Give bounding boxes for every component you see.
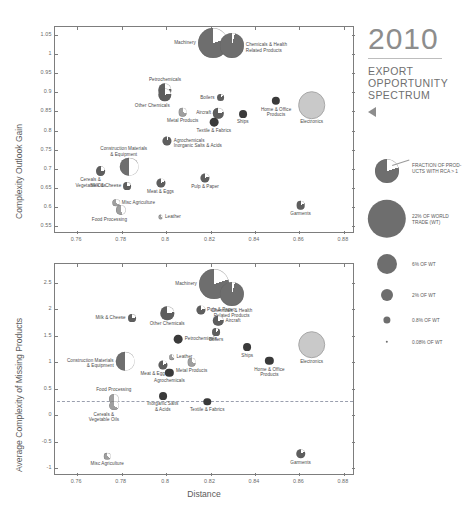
bubble-agrochemicals[interactable] — [165, 368, 173, 376]
axis-tick-label: 0.88 — [337, 478, 348, 484]
y-axis-title-top: Complexity Outlook Gain — [14, 124, 24, 219]
axis-tick-label: 0 — [48, 411, 51, 417]
y-tick — [55, 169, 58, 170]
bubble-other-chemicals[interactable] — [161, 307, 174, 320]
bubble-construction-materials-equipment[interactable] — [116, 352, 135, 371]
legend-size-label-2: 2% OF WT — [412, 293, 436, 299]
bubble-aircraft[interactable] — [213, 315, 223, 325]
bubble-label: Electronics — [300, 119, 323, 124]
bubble-boilers[interactable] — [212, 328, 220, 336]
bubble-label: Chemicals & Health Related Products — [246, 42, 287, 53]
bubble-leather[interactable] — [158, 214, 163, 219]
y-tick — [55, 207, 58, 208]
bubble-label: Home & Office Products — [261, 107, 291, 118]
axis-tick-label: 0.7 — [44, 165, 52, 171]
axis-tick-label: 0.9 — [44, 88, 52, 94]
axis-tick-label: 0.65 — [41, 184, 52, 190]
x-tick — [122, 231, 123, 234]
y-tick — [352, 207, 355, 208]
x-tick — [255, 27, 256, 30]
bubble-construction-materials-equipment[interactable] — [120, 157, 139, 176]
bubble-milk-cheese[interactable] — [123, 182, 131, 190]
bubble-label: Garments — [290, 460, 311, 465]
x-tick — [77, 27, 78, 30]
y-tick — [352, 442, 355, 443]
bubble-electronics[interactable] — [298, 331, 326, 359]
x-tick — [122, 264, 123, 267]
bubble-food-processing[interactable] — [115, 205, 125, 215]
y-tick — [55, 362, 58, 363]
bubble-garments[interactable] — [296, 201, 305, 210]
y-tick — [352, 309, 355, 310]
bubble-pulp-paper[interactable] — [200, 174, 209, 183]
bubble-chemicals-health-related-products[interactable] — [220, 33, 244, 57]
legend-size-circle-2[interactable] — [381, 289, 393, 301]
y-tick — [352, 169, 355, 170]
y-tick — [352, 362, 355, 363]
axis-tick-label: 0.82 — [204, 478, 215, 484]
axis-tick-label: 0.75 — [41, 146, 52, 152]
bubble-inorganic-salts-acids[interactable] — [159, 392, 167, 400]
subtitle-line-2: OPPORTUNITY — [368, 77, 464, 89]
bubble-leather[interactable] — [169, 354, 175, 360]
bubble-label: Agrochemicals — [154, 378, 185, 383]
x-tick — [299, 231, 300, 234]
chart-panel-top: MachineryElectronicsChemicals & Health R… — [54, 26, 414, 273]
bubble-misc-agriculture[interactable] — [104, 453, 110, 459]
infographic-root: MachineryElectronicsChemicals & Health R… — [0, 0, 468, 524]
y-tick — [352, 188, 355, 189]
triangle-left-icon — [368, 107, 376, 117]
x-axis-title: Distance — [187, 489, 220, 499]
y-tick — [352, 468, 355, 469]
bubble-meat-eggs[interactable] — [156, 178, 165, 187]
bubble-ships[interactable] — [243, 343, 251, 351]
axis-tick-label: 1.5 — [44, 332, 52, 338]
bubble-electronics[interactable] — [298, 91, 326, 119]
bubble-meat-eggs[interactable] — [158, 360, 167, 369]
bubble-label: Ships — [241, 353, 253, 358]
x-tick — [344, 473, 345, 476]
bubble-other-chemicals[interactable] — [158, 88, 171, 101]
subtitle-line-1: EXPORT — [368, 65, 464, 77]
legend-size-circle-1[interactable] — [377, 254, 397, 274]
bubble-pulp-paper[interactable] — [196, 306, 205, 315]
y-tick — [55, 35, 58, 36]
x-tick — [211, 231, 212, 234]
title-divider — [368, 58, 442, 59]
bubble-home-office-products[interactable] — [272, 97, 280, 105]
y-tick — [352, 389, 355, 390]
x-tick — [211, 264, 212, 267]
y-tick — [55, 389, 58, 390]
x-tick — [166, 473, 167, 476]
bubble-chemicals-health-related-products[interactable] — [220, 282, 244, 306]
y-tick — [55, 468, 58, 469]
bubble-cereals-vegetable-oils[interactable] — [109, 401, 119, 411]
axis-tick-label: 0.8 — [161, 236, 169, 242]
bubble-label: Metal Products — [167, 118, 198, 123]
axis-tick-label: 0.85 — [41, 107, 52, 113]
bubble-petrochemicals[interactable] — [174, 335, 183, 344]
bubble-label: Petrochemicals — [149, 77, 181, 82]
bubble-textile-fabrics[interactable] — [204, 398, 211, 405]
bubble-ships[interactable] — [239, 110, 247, 118]
y-tick — [352, 415, 355, 416]
bubble-garments[interactable] — [296, 449, 305, 458]
bubble-label: Leather — [176, 354, 192, 359]
axis-tick-label: 0.86 — [293, 236, 304, 242]
y-tick — [55, 54, 58, 55]
bubble-milk-cheese[interactable] — [128, 314, 136, 322]
bubble-textile-fabrics[interactable] — [210, 118, 219, 127]
axis-tick-label: 0.78 — [115, 478, 126, 484]
bubble-agrochemicals-inorganic-salts-acids[interactable] — [163, 136, 172, 145]
x-tick — [299, 27, 300, 30]
bubble-label: Aircraft — [196, 110, 211, 115]
bubble-home-office-products[interactable] — [265, 357, 273, 365]
axis-tick-label: 0.84 — [249, 478, 260, 484]
bubble-boilers[interactable] — [217, 94, 225, 102]
x-tick — [344, 231, 345, 234]
bubble-metal-products[interactable] — [178, 108, 187, 117]
bubble-label: Leather — [165, 214, 181, 219]
bubble-cereals-vegetable-oils[interactable] — [96, 166, 106, 176]
y-tick — [55, 309, 58, 310]
axis-tick-label: 0.5 — [44, 385, 52, 391]
